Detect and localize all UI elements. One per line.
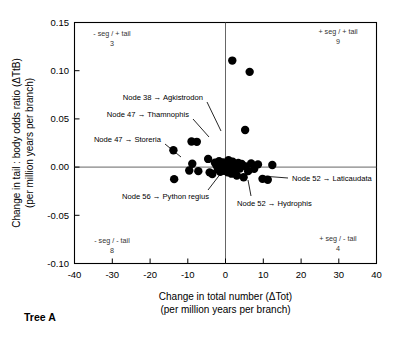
x-tick-label: -10 <box>181 269 195 280</box>
annotation-python: Node 56 → Python regius <box>122 192 209 201</box>
data-point <box>193 138 201 146</box>
y-tick-label: -0.05 <box>47 210 69 221</box>
annotation-laticaudata: Node 52 → Laticaudata <box>292 174 373 183</box>
y-tick-label: 0.05 <box>51 113 70 124</box>
scatter-plot-figure: 0.15 0.10 0.05 0.00 -0.05 -0.10 -40 -30 … <box>0 0 400 343</box>
y-tick-label: 0.10 <box>51 65 70 76</box>
data-point <box>268 161 276 169</box>
x-tick-label: 0 <box>223 269 228 280</box>
quadrant-label-text: + seg / - tail <box>319 234 357 243</box>
y-axis-title-line1: Change in tail : body odds ratio (ΔTtB) <box>11 58 22 228</box>
x-axis-title-line2: (per million years per branch) <box>160 304 290 315</box>
x-tick-label: -20 <box>143 269 157 280</box>
quadrant-count-text: 9 <box>336 37 340 46</box>
annotation-storeria: Node 47 → Storeria <box>94 135 162 144</box>
y-tick-label: 0.00 <box>51 161 70 172</box>
quadrant-label-text: + seg / + tail <box>318 27 358 36</box>
annotation-thamnophis: Node 47 → Thamnophis <box>107 110 189 119</box>
y-tick-label: 0.15 <box>51 17 70 28</box>
figure-caption: Tree A <box>24 311 56 323</box>
x-tick-label: 20 <box>296 269 307 280</box>
y-tick-label: -0.10 <box>47 258 69 269</box>
data-point <box>241 126 249 134</box>
quadrant-label-text: - seg / - tail <box>94 236 130 245</box>
data-point <box>228 56 236 64</box>
quadrant-count-text: 8 <box>110 246 114 255</box>
y-axis-title-line2: (per million years per branch) <box>24 78 35 208</box>
data-point <box>170 175 178 183</box>
x-tick-label: -40 <box>68 269 82 280</box>
data-point <box>185 166 193 174</box>
data-point <box>245 68 253 76</box>
x-axis-title-line1: Change in total number (ΔTot) <box>159 291 292 302</box>
annotation-agkistrodon: Node 38 → Agkistrodon <box>123 93 203 102</box>
quadrant-count-text: 4 <box>336 244 340 253</box>
x-tick-label: 10 <box>258 269 269 280</box>
data-point <box>254 160 262 168</box>
annotation-hydrophis: Node 52 → Hydrophis <box>237 199 312 208</box>
data-point <box>194 167 202 175</box>
x-tick-label: 30 <box>334 269 345 280</box>
x-tick-label: -30 <box>105 269 119 280</box>
quadrant-label-text: - seg / + tail <box>93 29 131 38</box>
x-axis-tick-labels: -40 -30 -20 -10 0 10 20 30 40 <box>68 269 382 280</box>
x-tick-label: 40 <box>371 269 382 280</box>
quadrant-count-text: 3 <box>110 39 114 48</box>
